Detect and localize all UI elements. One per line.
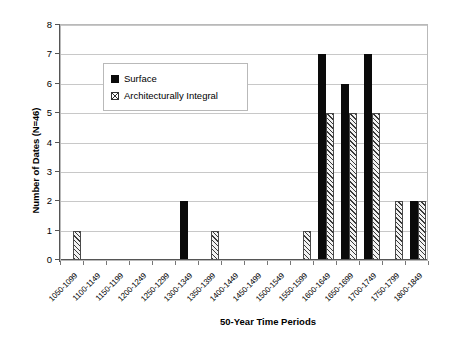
x-axis-tick-mark xyxy=(83,261,84,265)
x-axis-tick-mark xyxy=(129,261,130,265)
chart-legend: Surface Architecturally Integral xyxy=(103,63,248,111)
x-axis-tick-mark xyxy=(382,261,383,265)
bar xyxy=(372,113,380,260)
x-axis-line xyxy=(61,259,427,260)
y-axis-tick-label: 1 xyxy=(26,224,52,235)
x-axis-title: 50-Year Time Periods xyxy=(0,316,476,327)
bar-category-group xyxy=(199,25,222,260)
bar-category-group xyxy=(360,25,383,260)
x-axis-tick-mark xyxy=(313,261,314,265)
x-axis-tick-mark xyxy=(336,261,337,265)
y-axis-tick-label: 5 xyxy=(26,107,52,118)
x-axis-tick-mark xyxy=(60,261,61,265)
bar-category-group xyxy=(291,25,314,260)
y-axis-tick-label: 0 xyxy=(26,254,52,265)
x-axis-tick-mark xyxy=(221,261,222,265)
x-axis-tick-mark xyxy=(152,261,153,265)
x-axis-tick-mark xyxy=(106,261,107,265)
bar xyxy=(410,201,418,260)
bar-category-group xyxy=(176,25,199,260)
bar xyxy=(341,84,349,260)
y-axis-tick-label: 8 xyxy=(26,19,52,30)
bar xyxy=(73,231,81,260)
x-axis-tick-mark xyxy=(428,261,429,265)
bar xyxy=(326,113,334,260)
x-axis-tick-mark xyxy=(198,261,199,265)
legend-item: Architecturally Integral xyxy=(111,87,240,104)
x-axis-tick-mark xyxy=(175,261,176,265)
bar xyxy=(349,113,357,260)
bar xyxy=(418,201,426,260)
legend-item-label: Surface xyxy=(124,74,157,84)
y-axis-tick-label: 4 xyxy=(26,136,52,147)
bar xyxy=(303,231,311,260)
plot-area xyxy=(60,24,428,261)
x-axis-tick-mark xyxy=(244,261,245,265)
bar xyxy=(318,54,326,260)
bar-category-group xyxy=(153,25,176,260)
x-axis-tick-mark xyxy=(267,261,268,265)
bar xyxy=(180,201,188,260)
bar xyxy=(211,231,219,260)
bar xyxy=(395,201,403,260)
bar-category-group xyxy=(130,25,153,260)
legend-item: Surface xyxy=(111,70,240,87)
bar-category-group xyxy=(84,25,107,260)
y-axis-tick-label: 3 xyxy=(26,165,52,176)
black-square-icon xyxy=(111,75,119,83)
y-axis-tick-label: 2 xyxy=(26,195,52,206)
bar-category-group xyxy=(314,25,337,260)
bar-category-group xyxy=(61,25,84,260)
bar-category-group xyxy=(406,25,429,260)
bar-category-group xyxy=(383,25,406,260)
bar-category-group xyxy=(222,25,245,260)
bar-category-group xyxy=(337,25,360,260)
bar-chart: Number of Dates (N=46) 012345678 1050-10… xyxy=(0,0,476,342)
y-axis-tick-label: 7 xyxy=(26,48,52,59)
bar xyxy=(364,54,372,260)
x-axis-tick-mark xyxy=(405,261,406,265)
bar-category-group xyxy=(268,25,291,260)
x-axis-tick-mark xyxy=(359,261,360,265)
x-axis-tick-mark xyxy=(290,261,291,265)
legend-item-label: Architecturally Integral xyxy=(124,91,218,101)
hatched-square-icon xyxy=(111,92,119,100)
bar-category-group xyxy=(245,25,268,260)
y-axis-tick-label: 6 xyxy=(26,77,52,88)
bar-category-group xyxy=(107,25,130,260)
